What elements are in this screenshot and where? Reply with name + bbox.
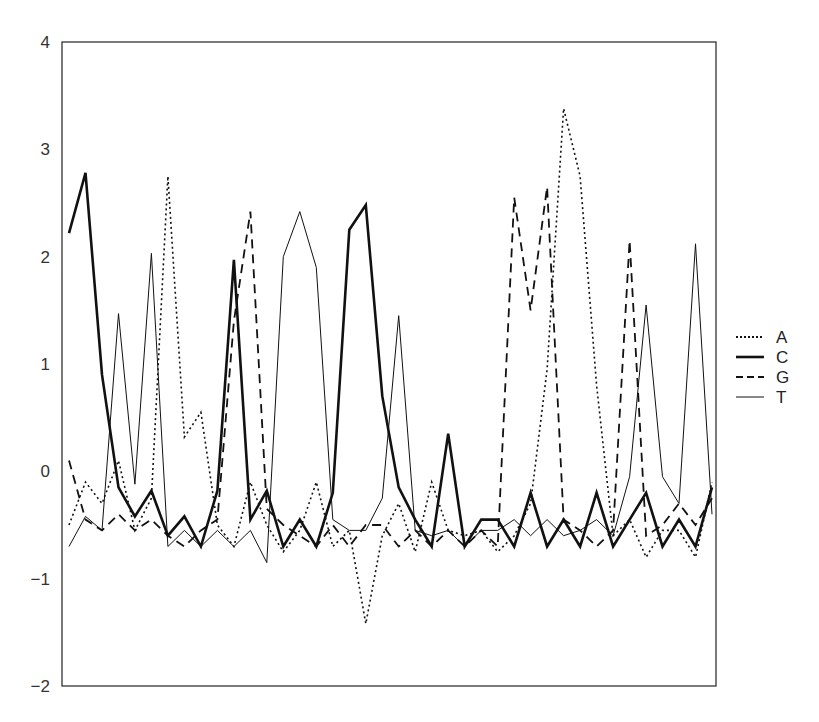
y-tick-label: 3 — [41, 140, 50, 159]
legend-label: A — [776, 328, 788, 347]
y-tick-label: 2 — [41, 248, 50, 267]
legend: ACGT — [736, 328, 789, 407]
legend-label: G — [776, 368, 789, 387]
legend-item-c: C — [736, 348, 788, 367]
legend-item-t: T — [736, 388, 786, 407]
series-lines — [69, 109, 712, 624]
y-axis-tick-labels: −2−101234 — [31, 33, 50, 696]
y-tick-label: 1 — [41, 355, 50, 374]
line-chart: −2−101234 ACGT — [0, 0, 819, 722]
legend-item-a: A — [736, 328, 788, 347]
y-tick-label: 4 — [41, 33, 50, 52]
series-line-a — [69, 109, 712, 624]
y-tick-label: 0 — [41, 462, 50, 481]
y-tick-label: −2 — [31, 677, 50, 696]
series-line-t — [69, 212, 712, 563]
plot-frame — [62, 42, 716, 686]
y-tick-label: −1 — [31, 570, 50, 589]
legend-item-g: G — [736, 368, 789, 387]
series-line-g — [69, 187, 712, 547]
legend-label: T — [776, 388, 786, 407]
legend-label: C — [776, 348, 788, 367]
